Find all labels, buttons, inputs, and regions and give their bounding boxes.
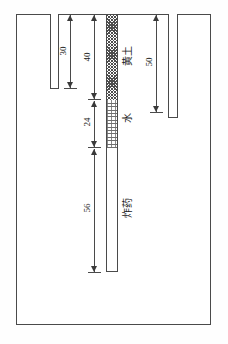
dimension-line-40: [94, 15, 95, 99]
material-label-explosive: 炸药: [119, 195, 134, 221]
dimension-label-40: 40: [82, 49, 92, 65]
dimension-line-56: [94, 149, 95, 272]
dimension-tick-56-bottom: [88, 272, 101, 273]
arrow-up-icon: [153, 15, 159, 21]
dimension-line-30: [70, 15, 71, 88]
dimension-line-50: [156, 15, 157, 112]
explosive-charge: [106, 148, 118, 272]
arrow-up-icon: [91, 15, 97, 21]
dimension-tick-40-bottom: [88, 99, 101, 100]
dimension-tick-50-bottom: [150, 112, 163, 113]
dimension-line-24: [94, 101, 95, 147]
material-label-water: 水: [119, 108, 134, 128]
dimension-tick-24-bottom: [88, 147, 101, 148]
dimension-stem-30: [70, 15, 71, 88]
arrow-up-icon: [67, 15, 73, 21]
arrow-up-icon: [91, 101, 97, 107]
dimension-label-24: 24: [82, 114, 92, 130]
water-layer: [106, 100, 118, 148]
dimension-stem-50: [156, 15, 157, 112]
material-label-loess: 黄土: [119, 43, 134, 69]
dimension-label-56: 56: [82, 200, 92, 216]
dimension-label-30: 30: [58, 43, 68, 59]
dimension-stem-40: [94, 15, 95, 99]
right-borehole: [168, 14, 178, 118]
dimension-tick-30-bottom: [64, 88, 77, 89]
loess-layer: [106, 15, 118, 100]
dimension-stem-56: [94, 149, 95, 272]
borehole-diagram: 30 黄土 水 炸药 40 24 56 50: [0, 0, 228, 344]
dimension-label-50: 50: [144, 54, 154, 70]
arrow-up-icon: [91, 149, 97, 155]
